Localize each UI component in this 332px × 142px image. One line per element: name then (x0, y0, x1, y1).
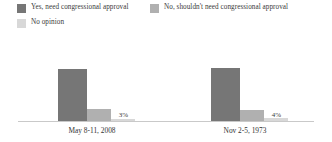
chart-plot-area: 79% 18% 3% May 8-11, 2008 80% 16% (0, 34, 332, 142)
bar-group-nov-1973: 80% 16% 4% Nov 2-5, 1973 (175, 34, 315, 142)
bar-group-may-2008: 79% 18% 3% May 8-11, 2008 (22, 34, 162, 142)
legend-swatch-icon (17, 19, 26, 28)
chart-page: { "legend": { "position": "top-left", "i… (0, 0, 332, 142)
bar-rect (240, 110, 264, 121)
chart-legend: Yes, need congressional approval No, sho… (0, 0, 332, 34)
legend-item-no[interactable]: No, shouldn't need congressional approva… (150, 3, 288, 13)
bar-rect (211, 68, 240, 121)
bar-rect (58, 69, 87, 121)
bar-rect (111, 119, 135, 121)
x-axis-tick-label: May 8-11, 2008 (22, 126, 162, 136)
legend-swatch-icon (17, 4, 26, 13)
legend-item-yes[interactable]: Yes, need congressional approval (17, 3, 128, 13)
legend-item-label: No opinion (31, 18, 64, 27)
legend-swatch-icon (150, 4, 159, 13)
bar-group-bars: 80% 16% 4% (175, 55, 315, 121)
bar-group-bars: 79% 18% 3% (22, 55, 162, 121)
legend-item-label: Yes, need congressional approval (31, 3, 128, 12)
bar-rect (264, 118, 288, 121)
x-axis-tick-label: Nov 2-5, 1973 (175, 126, 315, 136)
bar-rect (87, 109, 111, 121)
legend-item-no-opinion[interactable]: No opinion (17, 18, 64, 28)
legend-item-label: No, shouldn't need congressional approva… (164, 3, 288, 12)
